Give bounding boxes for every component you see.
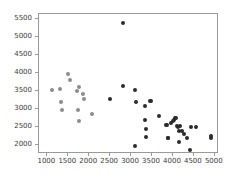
scatter-point	[66, 72, 70, 76]
y-tick-label: 5000	[0, 33, 32, 40]
scatter-point	[143, 104, 147, 108]
scatter-point	[81, 92, 85, 96]
scatter-point	[68, 78, 72, 82]
x-tick-label: 4000	[163, 158, 181, 165]
x-tick-label: 2000	[79, 158, 97, 165]
scatter-point	[121, 21, 125, 25]
y-tick-mark	[35, 108, 38, 109]
y-tick-mark	[35, 18, 38, 19]
scatter-point	[143, 118, 147, 122]
scatter-point	[157, 114, 161, 118]
y-tick-mark	[35, 36, 38, 37]
scatter-point	[50, 88, 54, 92]
scatter-point	[59, 100, 63, 104]
y-tick-mark	[35, 72, 38, 73]
scatter-point	[209, 136, 213, 140]
scatter-point	[77, 119, 81, 123]
scatter-point	[188, 148, 192, 152]
x-tick-mark	[109, 153, 110, 156]
plot-area	[38, 13, 218, 153]
scatter-point	[134, 100, 138, 104]
scatter-point	[58, 87, 62, 91]
y-tick-mark	[35, 54, 38, 55]
scatter-point	[189, 125, 193, 129]
x-tick-mark	[46, 153, 47, 156]
y-tick-mark	[35, 144, 38, 145]
x-tick-label: 2500	[100, 158, 118, 165]
x-tick-label: 5000	[205, 158, 223, 165]
x-tick-mark	[193, 153, 194, 156]
x-tick-mark	[151, 153, 152, 156]
x-tick-label: 1500	[58, 158, 76, 165]
scatter-point	[185, 136, 189, 140]
y-tick-label: 2500	[0, 123, 32, 130]
x-tick-label: 4500	[184, 158, 202, 165]
scatter-point	[177, 140, 181, 144]
scatter-point	[108, 97, 112, 101]
scatter-point	[174, 116, 178, 120]
scatter-point	[194, 125, 198, 129]
y-tick-label: 5500	[0, 15, 32, 22]
x-tick-mark	[130, 153, 131, 156]
x-tick-mark	[67, 153, 68, 156]
scatter-point	[60, 108, 64, 112]
scatter-plot-figure: 2000250030003500400045005000550010001500…	[0, 0, 250, 189]
y-tick-label: 4500	[0, 51, 32, 58]
x-tick-label: 3500	[142, 158, 160, 165]
x-tick-mark	[88, 153, 89, 156]
x-tick-mark	[214, 153, 215, 156]
y-tick-label: 4000	[0, 69, 32, 76]
x-tick-mark	[172, 153, 173, 156]
scatter-point	[77, 85, 81, 89]
y-tick-label: 2000	[0, 141, 32, 148]
y-tick-mark	[35, 90, 38, 91]
x-tick-label: 1000	[37, 158, 55, 165]
scatter-point	[76, 108, 80, 112]
scatter-point	[133, 88, 137, 92]
scatter-point	[75, 89, 79, 93]
scatter-point	[133, 144, 137, 148]
y-tick-label: 3500	[0, 87, 32, 94]
y-tick-label: 3000	[0, 105, 32, 112]
y-tick-mark	[35, 126, 38, 127]
scatter-point	[82, 97, 86, 101]
scatter-point	[149, 99, 153, 103]
scatter-point	[166, 136, 170, 140]
x-tick-label: 3000	[121, 158, 139, 165]
scatter-point	[144, 135, 148, 139]
scatter-point	[178, 124, 182, 128]
scatter-point	[121, 84, 125, 88]
scatter-point	[144, 127, 148, 131]
scatter-point	[90, 112, 94, 116]
